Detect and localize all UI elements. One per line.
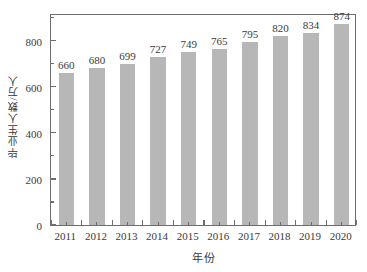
x-tick-minor [341, 222, 342, 225]
x-tick-minor [311, 222, 312, 225]
x-tick-label: 2014 [146, 230, 168, 242]
x-tick-label: 2013 [116, 230, 138, 242]
x-tick-label: 2018 [269, 230, 291, 242]
plot-area: 660680699727749765795820834874 [50, 14, 356, 226]
x-tick-minor [219, 222, 220, 225]
bar[interactable] [212, 49, 227, 225]
x-tick-label: 2017 [238, 230, 260, 242]
bar-value-label: 795 [242, 28, 259, 40]
x-tick-minor [96, 222, 97, 225]
x-tick-major [50, 220, 51, 225]
x-tick-label: 2011 [55, 230, 77, 242]
bar[interactable] [334, 24, 349, 225]
bar[interactable] [303, 33, 318, 225]
y-tick-label: 0 [37, 220, 43, 232]
bar[interactable] [120, 64, 135, 225]
y-tick-minor [51, 63, 54, 64]
x-tick-label: 2020 [330, 230, 352, 242]
x-tick-major [203, 220, 204, 225]
bar-value-label: 820 [272, 22, 289, 34]
x-axis-title: 年份 [50, 249, 357, 265]
y-tick-label: 200 [26, 174, 43, 186]
x-tick-major [142, 220, 143, 225]
x-tick-label: 2016 [207, 230, 229, 242]
bar[interactable] [89, 68, 104, 225]
x-tick-major [326, 220, 327, 225]
x-tick-major [356, 220, 357, 225]
x-tick-minor [188, 222, 189, 225]
bar[interactable] [242, 42, 257, 225]
x-tick-minor [249, 222, 250, 225]
bar[interactable] [181, 52, 196, 225]
x-tick-major [234, 220, 235, 225]
y-tick-major [51, 224, 56, 225]
y-tick-minor [51, 17, 54, 18]
x-tick-major [265, 220, 266, 225]
bar-value-label: 874 [333, 10, 350, 22]
bar-value-label: 765 [211, 35, 228, 47]
x-tick-minor [127, 222, 128, 225]
x-tick-label: 2019 [299, 230, 321, 242]
x-tick-minor [280, 222, 281, 225]
bar[interactable] [150, 57, 165, 225]
x-tick-major [81, 220, 82, 225]
bar-value-label: 749 [180, 38, 197, 50]
x-tick-major [112, 220, 113, 225]
x-tick-label: 2015 [177, 230, 199, 242]
bar-value-label: 727 [150, 43, 167, 55]
bar[interactable] [273, 36, 288, 225]
y-tick-major [51, 178, 56, 179]
bar-value-label: 680 [89, 54, 106, 66]
y-tick-minor [51, 155, 54, 156]
x-tick-minor [158, 222, 159, 225]
x-tick-label: 2012 [85, 230, 107, 242]
bar-chart-figure: 毕业生人数/万人 0200400600800 66068069972774976… [0, 0, 367, 272]
y-tick-label: 400 [26, 128, 43, 140]
y-tick-major [51, 40, 56, 41]
y-tick-major [51, 132, 56, 133]
x-tick-major [173, 220, 174, 225]
bar-value-label: 660 [58, 59, 75, 71]
bar-value-label: 834 [303, 19, 320, 31]
bar-value-label: 699 [119, 50, 136, 62]
x-tick-major [295, 220, 296, 225]
y-axis-tick-labels: 0200400600800 [0, 0, 50, 272]
y-tick-label: 600 [26, 82, 43, 94]
y-tick-minor [51, 201, 54, 202]
x-tick-minor [66, 222, 67, 225]
bar[interactable] [59, 73, 74, 225]
y-tick-minor [51, 109, 54, 110]
y-tick-label: 800 [26, 36, 43, 48]
y-tick-major [51, 86, 56, 87]
